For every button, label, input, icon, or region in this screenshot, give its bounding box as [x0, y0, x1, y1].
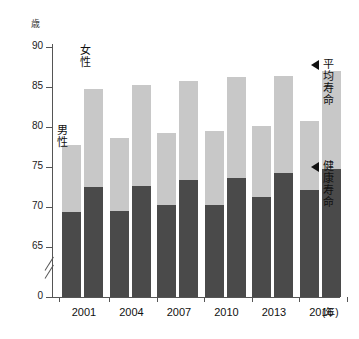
- callout-healthy-label: 健康寿命: [322, 160, 334, 208]
- left-triangle-icon: [311, 60, 319, 70]
- segment-life-expectancy: [252, 126, 271, 197]
- segment-life-expectancy: [227, 77, 246, 178]
- y-axis-tick-label: 70: [32, 200, 43, 212]
- y-axis-tick-label: 90: [32, 40, 43, 52]
- segment-healthy-life-expectancy: [252, 197, 271, 297]
- segment-healthy-life-expectancy: [62, 212, 81, 297]
- segment-life-expectancy: [179, 81, 198, 180]
- life-expectancy-bar-chart: 歳 9085807570650 200120042007201020132016…: [0, 0, 359, 339]
- x-axis-tick-mark: [109, 297, 110, 302]
- left-triangle-icon: [311, 162, 319, 172]
- x-axis-line: [52, 297, 340, 298]
- y-axis-tick-mark: [46, 297, 52, 298]
- bar-male-2001: [62, 145, 81, 297]
- series-label-female: 女性: [79, 44, 91, 68]
- bar-male-2016: [300, 121, 319, 297]
- x-axis-tick-mark: [252, 297, 253, 302]
- y-axis-tick-label: 0: [37, 290, 43, 302]
- segment-life-expectancy: [84, 89, 103, 187]
- bar-female-2013: [274, 76, 293, 297]
- plot-area: [52, 40, 339, 297]
- bar-female-2007: [179, 81, 198, 297]
- y-axis-tick-label: 75: [32, 160, 43, 172]
- segment-healthy-life-expectancy: [84, 187, 103, 297]
- x-axis-tick-mark: [204, 297, 205, 302]
- segment-healthy-life-expectancy: [110, 211, 129, 297]
- bar-group-2001: [62, 40, 106, 297]
- x-axis-tick-mark: [157, 297, 158, 302]
- x-axis-tick-mark: [299, 297, 300, 302]
- segment-healthy-life-expectancy: [179, 180, 198, 297]
- bar-male-2013: [252, 126, 271, 297]
- bar-group-2013: [252, 40, 296, 297]
- bar-group-2010: [205, 40, 249, 297]
- segment-life-expectancy: [274, 76, 293, 174]
- y-axis-unit-label: 歳: [31, 19, 40, 29]
- segment-healthy-life-expectancy: [157, 205, 176, 297]
- bar-female-2010: [227, 77, 246, 297]
- segment-life-expectancy: [110, 138, 129, 211]
- bar-male-2004: [110, 138, 129, 297]
- segment-healthy-life-expectancy: [274, 173, 293, 297]
- bar-male-2007: [157, 133, 176, 297]
- callout-life-label: 平均寿命: [322, 58, 334, 106]
- x-axis-unit-label: (年): [322, 306, 339, 319]
- x-axis-tick-mark: [347, 297, 348, 302]
- segment-life-expectancy: [205, 131, 224, 205]
- callout-average-life-expectancy: 平均寿命: [311, 58, 334, 106]
- segment-healthy-life-expectancy: [227, 178, 246, 297]
- callout-healthy-life-expectancy: 健康寿命: [311, 160, 334, 208]
- y-axis-tick-label: 80: [32, 120, 43, 132]
- bar-male-2010: [205, 131, 224, 297]
- y-axis-tick-label: 85: [32, 80, 43, 92]
- segment-life-expectancy: [157, 133, 176, 205]
- segment-healthy-life-expectancy: [132, 186, 151, 297]
- bar-female-2004: [132, 85, 151, 297]
- x-axis-tick-mark: [59, 297, 60, 302]
- segment-life-expectancy: [132, 85, 151, 187]
- bar-group-2007: [157, 40, 201, 297]
- bar-group-2004: [110, 40, 154, 297]
- y-axis-tick-label: 65: [32, 240, 43, 252]
- segment-life-expectancy: [62, 145, 81, 212]
- bar-female-2001: [84, 89, 103, 297]
- series-label-male: 男性: [56, 124, 68, 148]
- segment-healthy-life-expectancy: [205, 205, 224, 297]
